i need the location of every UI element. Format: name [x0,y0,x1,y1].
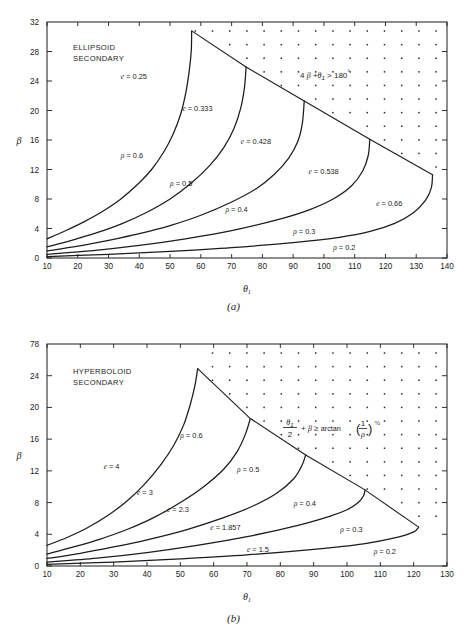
curve-label: e = 3 [137,488,153,497]
figure-b: 1020304050607080901001101201300481216202… [0,318,467,636]
x-tick-label: 40 [142,570,152,579]
y-tick-label: 4 [34,530,39,539]
x-tick-label: 80 [276,570,286,579]
y-axis-title: β [16,450,22,461]
x-tick-label: 70 [242,570,252,579]
curve-label: e = 2.3 [167,505,189,514]
svg-text:): ) [368,421,372,436]
curve-label: e = 0.66 [376,199,402,208]
x-tick-label: 140 [440,262,454,271]
svg-text:θ1: θ1 [286,418,293,428]
plot-ellipsoid-secondary: 1020304050607080901001101201301400481216… [0,0,467,298]
curve-label: e = 0.25 [121,72,147,81]
x-tick-label: 110 [374,570,387,579]
x-tick-label: 20 [76,570,86,579]
curve-label: ρ = 0.3 [292,227,315,236]
svg-text:SECONDARY: SECONDARY [73,54,124,63]
y-tick-label: 24 [30,77,40,86]
curve-label: ρ = 0.2 [332,243,355,252]
inequality-annotation: θ12+ β ≥ arctan(1ρ)½ [283,418,380,439]
x-tick-label: 60 [209,570,219,579]
curve-label: ρ = 0.6 [179,431,202,440]
x-tick-label: 80 [258,262,268,271]
y-tick-label: 12 [30,166,40,175]
x-tick-label: 90 [289,262,299,271]
figure-a-caption: (a) [0,300,467,312]
x-tick-label: 130 [409,262,423,271]
figure-b-caption: (b) [0,612,467,624]
curve-label: e = 1.5 [247,545,269,554]
x-tick-label: 120 [379,262,393,271]
boundary-line [192,31,433,175]
y-tick-label: 28 [30,48,40,57]
x-tick-label: 130 [440,570,454,579]
svg-text:4 β +θ1 > 180°: 4 β +θ1 > 180° [300,69,350,81]
x-tick-label: 100 [317,262,331,271]
curve-label: ρ = 0.4 [293,499,316,508]
svg-text:SECONDARY: SECONDARY [73,378,124,387]
x-tick-label: 10 [42,570,52,579]
curve-label: e = 0.428 [241,137,271,146]
curve-label: e = 0.538 [309,167,339,176]
curve--0-6 [47,369,198,546]
figure-a: 1020304050607080901001101201301400481216… [0,0,467,318]
curve-label: ρ = 0.6 [120,151,143,160]
x-axis-title: θ1 [243,283,251,295]
curve-label: ρ = 0.5 [236,465,259,474]
y-tick-label: 16 [30,136,40,145]
y-tick-label: 24 [30,372,40,381]
y-tick-label: 8 [34,499,39,508]
x-tick-label: 110 [348,262,361,271]
y-tick-label: 20 [30,107,40,116]
curve-label: ρ = 0.4 [224,205,247,214]
x-tick-label: 50 [166,262,176,271]
y-tick-label: 12 [30,467,40,476]
forbidden-region-dot-grid [195,30,437,168]
region-label: HYPERBOLOIDSECONDARY [73,367,132,387]
x-tick-label: 30 [104,262,114,271]
curve--0-5 [47,419,250,555]
curve-labels-group: e = 0.25e = 0.333e = 0.428e = 0.538e = 0… [120,72,402,252]
curve-labels-group: e = 4e = 3e = 2.3e = 1.857e = 1.5ρ = 0.6… [104,431,396,557]
svg-text:θ1: θ1 [243,591,251,603]
curve-label: e = 1.857 [210,523,240,532]
plot-hyperboloid-secondary: 1020304050607080901001101201300481216202… [0,318,467,608]
x-tick-label: 30 [109,570,119,579]
y-tick-label: 0 [34,254,39,263]
x-tick-label: 100 [340,570,354,579]
svg-text:θ1: θ1 [243,283,251,295]
curve-label: ρ = 0.5 [169,179,192,188]
y-tick-label: 32 [30,18,40,27]
curve--0-3 [47,139,370,254]
y-tick-label: 0 [34,562,39,571]
x-tick-label: 90 [309,570,319,579]
x-tick-label: 10 [42,262,52,271]
x-tick-label: 40 [135,262,145,271]
x-tick-label: 60 [196,262,206,271]
svg-text:2: 2 [288,430,293,439]
curve--0-2 [47,527,419,564]
svg-text:HYPERBOLOID: HYPERBOLOID [73,367,132,376]
y-tick-label: 16 [30,435,40,444]
curve-label: ρ = 0.2 [373,547,396,556]
x-tick-label: 20 [73,262,83,271]
curve--0-4 [47,101,304,251]
curve-label: e = 0.333 [182,104,212,113]
region-label: ELLIPSOIDSECONDARY [73,43,124,63]
inequality-annotation: 4 β +θ1 > 180° [300,69,350,81]
svg-text:1: 1 [361,419,366,428]
svg-text:+ β ≥ arctan: + β ≥ arctan [301,424,341,433]
y-axis-title: β [16,135,22,146]
y-tick-label: 20 [30,403,40,412]
svg-text:ρ: ρ [360,430,365,439]
x-tick-label: 120 [407,570,421,579]
y-tick-label: 4 [34,225,39,234]
y-tick-label: 78 [30,340,40,349]
x-axis-title: θ1 [243,591,251,603]
svg-text:ELLIPSOID: ELLIPSOID [73,43,116,52]
curve-label: e = 4 [104,462,120,471]
x-tick-label: 50 [176,570,186,579]
curve--0-2 [47,175,433,257]
y-tick-label: 8 [34,195,39,204]
curve-label: ρ = 0.3 [339,525,362,534]
